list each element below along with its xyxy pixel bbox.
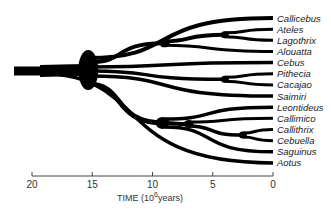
taxon-label: Callimico <box>277 113 316 124</box>
branch-callithrix <box>243 130 273 134</box>
branch-ateles <box>225 29 273 33</box>
tick-label: 15 <box>87 179 99 190</box>
taxon-label: Ateles <box>276 24 304 35</box>
branch-cacajao <box>225 81 273 85</box>
taxon-label: Cebuella <box>277 135 315 146</box>
taxon-label: Saimiri <box>277 91 307 102</box>
phylogeny-diagram: CallicebusAtelesLagothrixAlouattaCebusPi… <box>0 0 331 211</box>
taxon-label: Cacajao <box>277 79 312 90</box>
taxon-label: Alouatta <box>276 46 312 57</box>
taxon-label: Pithecia <box>277 68 311 79</box>
taxon-labels: CallicebusAtelesLagothrixAlouattaCebusPi… <box>276 13 324 169</box>
taxon-label: Lagothrix <box>277 35 317 46</box>
taxon-label: Aotus <box>276 157 302 168</box>
branch-callitrichidae <box>88 84 164 123</box>
taxon-label: Leontideus <box>277 102 324 113</box>
branch-lagothrix <box>225 37 273 41</box>
branch-cebus <box>90 63 273 67</box>
tick-label: 10 <box>147 179 159 190</box>
taxon-label: Callicebus <box>277 13 321 24</box>
branch-callimico <box>189 118 273 122</box>
branch-pithecia <box>225 74 273 78</box>
tick-label: 20 <box>26 179 38 190</box>
tree-branches <box>14 18 273 163</box>
axis-title: TIME (106years) <box>117 191 183 203</box>
taxon-label: Cebus <box>277 57 305 68</box>
tick-label: 0 <box>270 179 276 190</box>
tick-label: 5 <box>210 179 216 190</box>
taxon-label: Saguinus <box>277 146 317 157</box>
branch-alouatta <box>165 45 273 51</box>
time-axis: 20151050 TIME (106years) <box>26 172 276 203</box>
taxon-label: Callithrix <box>277 124 315 135</box>
branch-cebuella <box>243 137 273 141</box>
